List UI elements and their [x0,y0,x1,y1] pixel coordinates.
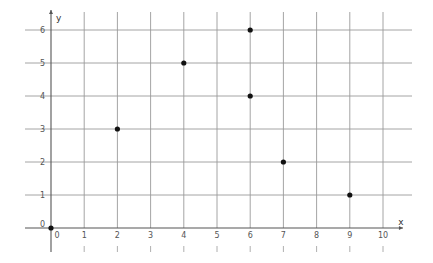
y-tick-label: 6 [40,26,45,35]
x-tick-label: 8 [314,231,319,240]
x-tick-label: 1 [82,231,87,240]
x-tick-label: 6 [248,231,253,240]
x-tick-label: 0 [54,231,59,240]
data-point [115,126,120,131]
y-axis-arrow-icon [49,10,53,14]
x-tick-label: 9 [347,231,352,240]
data-point [248,93,253,98]
tick-labels: 0123456789100123456 [40,26,388,240]
x-tick-label: 5 [214,231,219,240]
data-point [248,27,253,32]
y-tick-label: 5 [40,59,45,68]
x-axis-label: x [398,217,404,227]
data-point [181,60,186,65]
y-tick-label: 4 [40,92,45,101]
y-tick-label: 1 [40,191,45,200]
y-tick-label: 0 [40,220,45,229]
y-axis-label: y [56,13,62,23]
y-tick-label: 3 [40,125,45,134]
data-point [281,159,286,164]
y-tick-label: 2 [40,158,45,167]
data-point [347,192,352,197]
scatter-plot: 0123456789100123456 x y [0,0,433,263]
x-tick-label: 4 [181,231,186,240]
grid-lines [25,12,412,252]
axes [25,10,403,252]
x-tick-label: 7 [281,231,286,240]
x-tick-label: 3 [148,231,153,240]
data-point [48,225,53,230]
x-tick-label: 10 [378,231,388,240]
x-tick-label: 2 [115,231,120,240]
